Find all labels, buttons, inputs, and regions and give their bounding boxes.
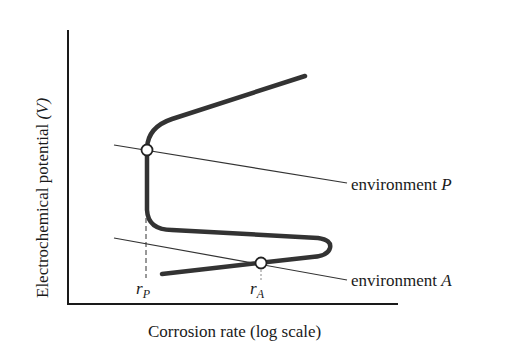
y-axis-label: Electrochemical potential (V) <box>33 98 52 298</box>
environment-p-label: environment P <box>351 175 452 194</box>
intersection-a-marker <box>256 258 267 269</box>
environment-a-label: environment A <box>351 271 452 290</box>
intersection-p-marker <box>142 145 153 156</box>
diagram-canvas: Electrochemical potential (V) Corrosion … <box>0 0 519 362</box>
polarization-curve <box>147 76 330 274</box>
rate-a-label: rA <box>250 279 265 301</box>
rate-p-label: rP <box>136 279 151 301</box>
x-axis-label: Corrosion rate (log scale) <box>148 322 321 341</box>
